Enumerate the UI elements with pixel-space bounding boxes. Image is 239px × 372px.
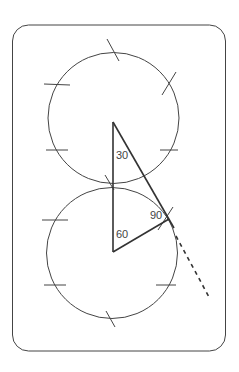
diagram-canvas: 30 90 60 (0, 0, 239, 372)
bottom-circle-ticks (42, 207, 176, 327)
dashed-extension (176, 236, 209, 297)
bottom-circle (47, 188, 178, 319)
angle-label-right: 90 (150, 209, 162, 221)
angle-label-top: 30 (116, 149, 128, 161)
angle-label-bottom: 60 (116, 228, 128, 240)
top-circle-ticks (44, 39, 178, 190)
